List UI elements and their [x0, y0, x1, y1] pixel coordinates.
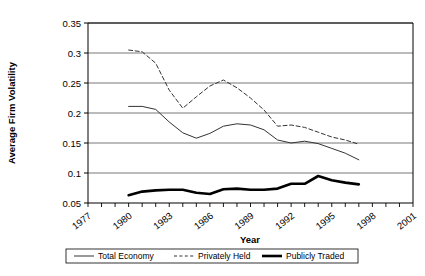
legend-label-publicly-traded: Publicly Traded	[286, 251, 344, 261]
y-tick-label: 0.35	[63, 18, 82, 29]
chart-legend: Total EconomyPrivately HeldPublicly Trad…	[66, 249, 358, 263]
y-tick-label: 0.05	[63, 198, 82, 209]
chart-figure: 0.350.30.250.20.150.10.05 19771980198319…	[0, 0, 425, 276]
y-tick-label: 0.3	[68, 48, 81, 59]
y-tick-label: 0.1	[68, 168, 81, 179]
y-tick-label: 0.15	[63, 138, 82, 149]
volatility-line-chart: 0.350.30.250.20.150.10.05 19771980198319…	[0, 0, 425, 276]
y-tick-label: 0.2	[68, 108, 81, 119]
legend-label-total-economy: Total Economy	[98, 251, 154, 261]
x-axis-title: Year	[240, 234, 260, 245]
y-tick-label: 0.25	[63, 78, 82, 89]
legend-label-privately-held: Privately Held	[198, 251, 251, 261]
y-axis-title: Average Firm Volatility	[6, 61, 17, 164]
